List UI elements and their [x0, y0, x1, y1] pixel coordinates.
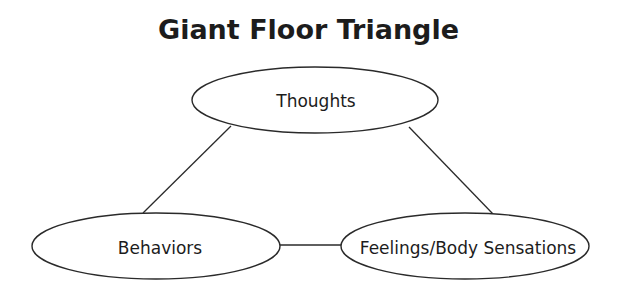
edge-thoughts-behaviors — [143, 126, 231, 213]
node-feelings-label: Feelings/Body Sensations — [360, 238, 576, 258]
node-thoughts-label: Thoughts — [276, 91, 355, 111]
edge-thoughts-feelings — [409, 127, 493, 214]
node-behaviors-label: Behaviors — [118, 238, 202, 258]
